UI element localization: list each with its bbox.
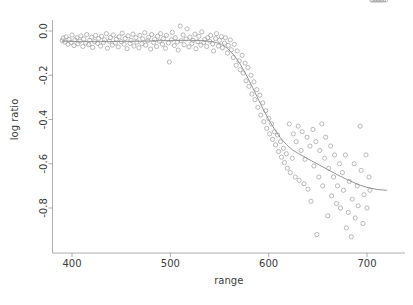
data-point — [125, 47, 129, 51]
data-point — [249, 73, 253, 77]
data-point — [90, 35, 94, 39]
data-point — [225, 51, 229, 55]
data-point — [172, 44, 176, 48]
data-point — [170, 30, 174, 34]
data-point — [340, 171, 344, 175]
data-point — [101, 40, 105, 44]
data-point — [212, 49, 216, 53]
data-point — [320, 122, 324, 126]
data-point — [164, 33, 168, 37]
data-point — [234, 63, 238, 67]
data-point — [182, 43, 186, 47]
data-point — [140, 42, 144, 46]
data-point — [300, 130, 304, 134]
data-point — [364, 153, 368, 157]
y-tick-label: -0.2 — [38, 65, 49, 85]
data-point — [358, 124, 362, 128]
data-point — [350, 197, 354, 201]
data-point — [315, 232, 319, 236]
data-point — [290, 156, 294, 160]
data-point — [150, 32, 154, 36]
data-point — [138, 33, 142, 37]
data-point — [346, 210, 350, 214]
data-point — [361, 221, 365, 225]
data-point — [70, 33, 74, 37]
data-point — [258, 93, 262, 97]
data-point — [288, 171, 292, 175]
data-point — [314, 140, 318, 144]
data-point — [341, 188, 345, 192]
x-axis-ticks: 400500600700 — [62, 253, 376, 269]
data-point — [367, 175, 371, 179]
data-point — [279, 155, 283, 159]
data-point — [330, 194, 334, 198]
data-point — [299, 148, 303, 152]
plot-axes: 0.0-0.2-0.4-0.6-0.8 400500600700 — [38, 20, 406, 269]
data-point — [158, 32, 162, 36]
data-point — [169, 38, 173, 42]
data-point — [181, 33, 185, 37]
y-tick-label: 0.0 — [38, 23, 49, 39]
data-point — [332, 153, 336, 157]
data-point — [312, 164, 316, 168]
data-point — [117, 35, 121, 39]
scatter-points-layer — [60, 0, 388, 239]
data-point — [337, 162, 341, 166]
data-point — [219, 35, 223, 39]
data-point — [282, 161, 286, 165]
data-point — [287, 122, 291, 126]
data-point — [98, 44, 102, 48]
data-point — [365, 206, 369, 210]
data-point — [244, 79, 248, 83]
data-point — [329, 144, 333, 148]
data-point — [222, 41, 226, 45]
data-point — [81, 44, 85, 48]
chart-container: 0.0-0.2-0.4-0.6-0.8 400500600700 range l… — [0, 0, 413, 305]
data-point — [82, 37, 86, 41]
data-point — [135, 40, 139, 44]
data-point — [252, 80, 256, 84]
data-point — [250, 92, 254, 96]
data-point — [285, 166, 289, 170]
data-point — [111, 33, 115, 37]
data-point — [326, 214, 330, 218]
data-point — [318, 148, 322, 152]
data-point — [334, 201, 338, 205]
data-point — [149, 47, 153, 51]
data-point — [353, 216, 357, 220]
data-point — [343, 153, 347, 157]
y-axis-title: log ratio — [9, 99, 20, 140]
data-point — [72, 44, 76, 48]
data-point — [110, 43, 114, 47]
y-tick-label: -0.4 — [38, 110, 49, 130]
x-tick-label: 500 — [161, 258, 180, 269]
data-point — [296, 124, 300, 128]
data-point — [122, 42, 126, 46]
data-point — [276, 149, 280, 153]
data-point — [262, 120, 266, 124]
data-point — [96, 36, 100, 40]
y-axis-ticks: 0.0-0.2-0.4-0.6-0.8 — [38, 23, 53, 218]
y-tick-label: -0.6 — [38, 154, 49, 174]
data-point — [255, 88, 259, 92]
data-point — [200, 30, 204, 34]
data-point — [167, 60, 171, 64]
data-point — [216, 44, 220, 48]
data-point — [91, 45, 95, 49]
data-point — [235, 49, 239, 53]
smooth-fit-curve — [62, 40, 387, 190]
data-point — [284, 152, 288, 156]
data-point — [253, 97, 257, 101]
data-point — [176, 48, 180, 52]
lidar-scatter-plot: 0.0-0.2-0.4-0.6-0.8 400500600700 range l… — [0, 0, 413, 305]
data-point — [335, 184, 339, 188]
data-point — [131, 32, 135, 36]
data-point — [226, 43, 230, 47]
data-point — [163, 46, 167, 50]
data-point — [132, 44, 136, 48]
data-point — [99, 34, 103, 38]
data-point — [259, 113, 263, 117]
data-point — [324, 135, 328, 139]
data-point — [243, 61, 247, 65]
data-point — [197, 34, 201, 38]
